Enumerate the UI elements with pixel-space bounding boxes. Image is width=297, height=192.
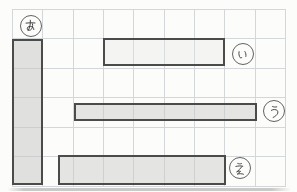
label-badge-a: あ xyxy=(20,15,42,37)
bar-i xyxy=(103,38,225,67)
hiragana-u-icon xyxy=(267,104,282,119)
hiragana-a-icon xyxy=(23,18,38,33)
page-background: あ い う え xyxy=(0,0,297,192)
hiragana-i-icon xyxy=(235,47,250,62)
hiragana-e-icon xyxy=(232,161,247,176)
worksheet-figure: あ い う え xyxy=(0,0,297,192)
bar-u xyxy=(74,103,258,121)
label-badge-i: い xyxy=(232,43,254,65)
bar-e xyxy=(58,155,226,185)
bar-a xyxy=(12,39,44,185)
label-badge-e: え xyxy=(229,157,251,179)
page-edge-shadow xyxy=(7,188,291,191)
label-badge-u: う xyxy=(263,100,285,122)
